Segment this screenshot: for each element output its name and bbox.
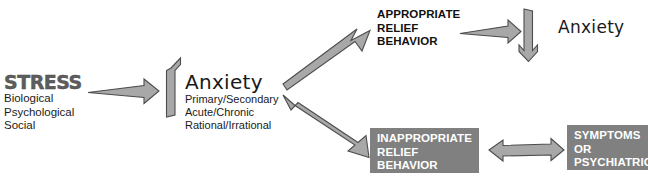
node-anxiety-reduced: Anxiety (558, 17, 624, 37)
symptoms-line-1: SYMPTOMS OR (574, 129, 642, 156)
appropriate-line-3: BEHAVIOR (377, 35, 497, 49)
arrow-anxiety-increase (167, 58, 181, 117)
symptoms-line-2: PSYCHIATRIC (574, 156, 642, 170)
appropriate-line-1: APPROPRIATE (377, 8, 497, 22)
stress-item-biological: Biological (4, 92, 124, 106)
diagram-canvas: STRESS Biological Psychological Social A… (0, 0, 648, 178)
inappropriate-line-2: RELIEF (377, 146, 473, 160)
node-appropriate-relief-behavior: APPROPRIATE RELIEF BEHAVIOR (377, 8, 497, 49)
stress-item-psychological: Psychological (4, 106, 124, 120)
arrow-inappropriate-to-symptoms (489, 139, 564, 162)
inappropriate-line-3: BEHAVIOR (377, 159, 473, 173)
node-inappropriate-relief-behavior: INAPPROPRIATE RELIEF BEHAVIOR (370, 128, 479, 173)
anxiety-item-rational-irrational: Rational/Irrational (185, 119, 310, 132)
stress-item-social: Social (4, 119, 124, 133)
inappropriate-line-1: INAPPROPRIATE (377, 132, 473, 146)
node-anxiety-main: Anxiety Primary/Secondary Acute/Chronic … (185, 71, 310, 132)
anxiety-item-acute-chronic: Acute/Chronic (185, 106, 310, 119)
appropriate-line-2: RELIEF (377, 22, 497, 36)
symptoms-line-3: SYNDROMES (574, 170, 642, 179)
arrow-anxiety-decrease (519, 9, 538, 62)
node-stress: STRESS Biological Psychological Social (4, 72, 124, 133)
anxiety-item-primary-secondary: Primary/Secondary (185, 93, 310, 106)
node-symptoms-or-psychiatric-syndromes: SYMPTOMS OR PSYCHIATRIC SYNDROMES (567, 125, 648, 170)
anxiety-main-title: Anxiety (185, 71, 310, 93)
stress-title: STRESS (4, 72, 124, 92)
